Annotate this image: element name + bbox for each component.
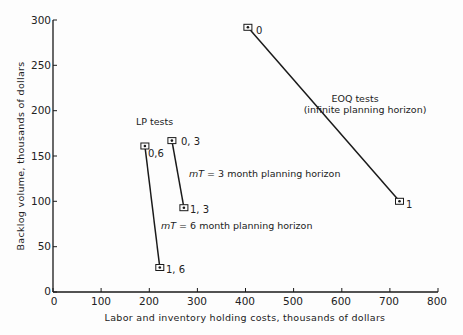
x-tick-label: 800 xyxy=(427,295,447,307)
point-label-eoq-0: 0 xyxy=(256,25,262,36)
chart: 0 50 100 150 200 250 300 0 100 200 300 4… xyxy=(0,0,463,335)
y-tick-label: 100 xyxy=(31,195,51,207)
x-tick-label: 100 xyxy=(91,295,111,307)
lp-3month-line xyxy=(172,141,184,208)
point-label-eoq-1: 1 xyxy=(406,199,412,210)
y-tick-label: 150 xyxy=(31,150,51,162)
x-tick-label: 200 xyxy=(139,295,159,307)
y-tick-label: 50 xyxy=(38,240,51,252)
marker-eoq-0 xyxy=(244,24,252,30)
point-label-lp-0-6: 0,6 xyxy=(148,148,164,159)
y-tick-label: 200 xyxy=(31,104,51,116)
point-label-lp-1-3: 1, 3 xyxy=(190,204,209,215)
point-markers xyxy=(141,24,404,270)
x-tick-label: 300 xyxy=(187,295,207,307)
marker-lp-0-3 xyxy=(168,138,176,144)
annotation-mt6: mT = 6 month planning horizon xyxy=(161,220,312,231)
lp-6month-line xyxy=(145,146,160,268)
marker-lp-1-6 xyxy=(156,265,164,271)
x-tick-labels: 0 100 200 300 400 500 600 700 800 xyxy=(51,295,447,307)
annotation-lp-title: LP tests xyxy=(136,116,173,127)
x-tick-label: 700 xyxy=(379,295,399,307)
annotation-eoq-subtitle: (infinite planning horizon) xyxy=(304,104,427,115)
marker-eoq-1 xyxy=(396,198,404,204)
y-tick-labels: 0 50 100 150 200 250 300 xyxy=(31,14,51,297)
x-tick-label: 0 xyxy=(51,295,58,307)
point-label-lp-0-3: 0, 3 xyxy=(181,136,200,147)
y-axis-title: Backlog volume, thousands of dollars xyxy=(15,62,26,251)
x-tick-label: 500 xyxy=(283,295,303,307)
annotation-mt3: mT = 3 month planning horizon xyxy=(189,168,340,179)
marker-lp-1-3 xyxy=(180,205,188,211)
x-axis-title: Labor and inventory holding costs, thous… xyxy=(105,312,386,323)
x-tick-label: 400 xyxy=(235,295,255,307)
y-tick-label: 250 xyxy=(31,59,51,71)
annotation-eoq-title: EOQ tests xyxy=(331,93,378,104)
y-tick-label: 300 xyxy=(31,14,51,26)
x-tick-label: 600 xyxy=(331,295,351,307)
axes xyxy=(53,20,438,292)
point-label-lp-1-6: 1, 6 xyxy=(166,264,185,275)
